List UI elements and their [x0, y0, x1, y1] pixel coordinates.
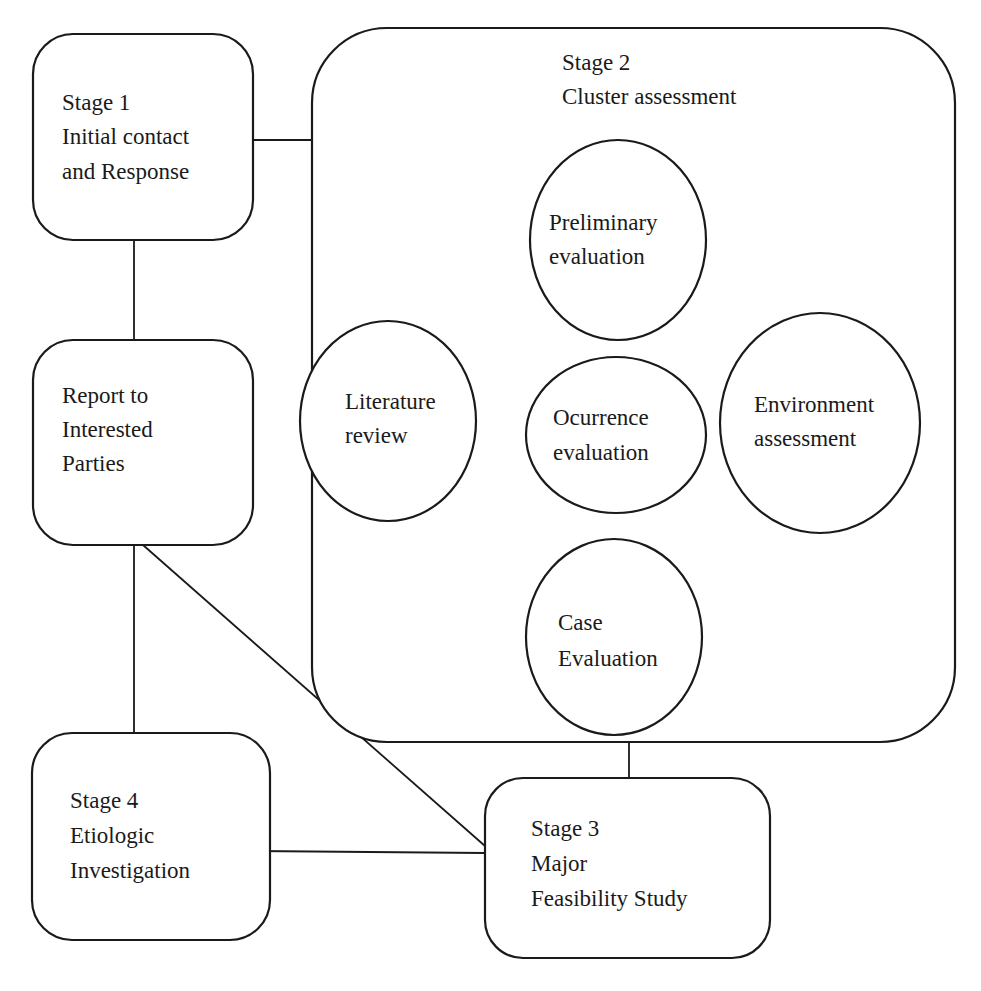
stage4-node: Stage 4 Etiologic Investigation	[32, 733, 270, 940]
occurrence-node: Ocurrence evaluation	[526, 357, 706, 513]
report-label-line2: Interested	[62, 417, 153, 442]
stage3-label-line1: Stage 3	[531, 816, 599, 841]
literature-label-line1: Literature	[345, 389, 436, 414]
cluster-investigation-diagram: Stage 2 Cluster assessment Stage 1 Initi…	[0, 0, 981, 991]
report-label-line1: Report to	[62, 383, 148, 408]
stage4-label-line1: Stage 4	[70, 788, 139, 813]
preliminary-label-line2: evaluation	[549, 244, 645, 269]
stage1-label-line2: Initial contact	[62, 124, 190, 149]
stage3-box	[485, 778, 770, 958]
preliminary-label-line1: Preliminary	[549, 210, 658, 235]
environment-label-line2: assessment	[754, 426, 857, 451]
literature-label-line2: review	[345, 423, 408, 448]
case-node: Case Evaluation	[526, 539, 702, 735]
case-label-line1: Case	[558, 610, 603, 635]
report-label-line3: Parties	[62, 451, 125, 476]
preliminary-ellipse	[530, 140, 706, 340]
stage2-label-line2: Cluster assessment	[562, 84, 737, 109]
environment-ellipse	[720, 313, 920, 533]
environment-node: Environment assessment	[720, 313, 920, 533]
report-node: Report to Interested Parties	[33, 340, 253, 545]
stage3-label-line2: Major	[531, 851, 588, 876]
stage4-label-line3: Investigation	[70, 858, 191, 883]
stage2-label-line1: Stage 2	[562, 50, 630, 75]
literature-ellipse	[300, 321, 476, 521]
stage1-label-line3: and Response	[62, 159, 189, 184]
stage3-label-line3: Feasibility Study	[531, 886, 688, 911]
environment-label-line1: Environment	[754, 392, 875, 417]
stage4-label-line2: Etiologic	[70, 823, 154, 848]
occurrence-ellipse	[526, 357, 706, 513]
occurrence-label-line1: Ocurrence	[553, 405, 649, 430]
preliminary-node: Preliminary evaluation	[530, 140, 706, 340]
edge-stage4-stage3	[253, 851, 485, 853]
stage1-label-line1: Stage 1	[62, 90, 130, 115]
case-label-line2: Evaluation	[558, 646, 658, 671]
stage3-node: Stage 3 Major Feasibility Study	[485, 778, 770, 958]
literature-node: Literature review	[300, 321, 476, 521]
case-ellipse	[526, 539, 702, 735]
report-box	[33, 340, 253, 545]
occurrence-label-line2: evaluation	[553, 440, 649, 465]
stage1-node: Stage 1 Initial contact and Response	[33, 34, 253, 240]
